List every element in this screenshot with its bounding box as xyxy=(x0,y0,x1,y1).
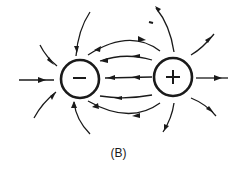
figure-caption: (B) xyxy=(0,146,237,160)
arrowhead xyxy=(205,36,212,43)
field-line xyxy=(100,95,152,98)
field-lines xyxy=(19,8,228,134)
arrowhead xyxy=(132,54,140,58)
positive-charge xyxy=(154,58,192,96)
arrowhead xyxy=(138,36,146,42)
negative-charge xyxy=(61,60,99,98)
arrowhead xyxy=(155,6,161,12)
field-line xyxy=(88,101,160,114)
arrowhead xyxy=(71,101,77,108)
field-line xyxy=(191,98,216,116)
stray-mark xyxy=(149,22,153,23)
field-line xyxy=(40,45,57,66)
field-line xyxy=(156,8,174,52)
arrowhead xyxy=(214,75,222,81)
arrowhead xyxy=(50,92,56,100)
arrowhead xyxy=(38,77,46,83)
arrowhead xyxy=(114,96,122,100)
field-line xyxy=(76,12,90,56)
arrowhead xyxy=(164,124,169,131)
